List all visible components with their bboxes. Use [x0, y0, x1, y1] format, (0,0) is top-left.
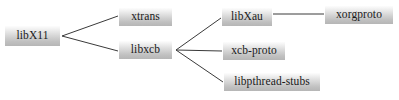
dependency-diagram: libX11 xtrans libxcb libXau xcb-proto li…	[0, 0, 399, 100]
node-libxau[interactable]: libXau	[222, 8, 272, 26]
node-xcb-proto[interactable]: xcb-proto	[223, 42, 285, 60]
edge-libxcb-libxau	[176, 18, 221, 50]
node-xorgproto[interactable]: xorgproto	[325, 6, 393, 24]
node-label-libxcb: libxcb	[131, 44, 160, 56]
node-label-libxau: libXau	[231, 11, 263, 23]
edge-libxcb-libpthread-stubs	[176, 50, 223, 82]
node-label-xcb-proto: xcb-proto	[231, 45, 277, 57]
node-label-xtrans: xtrans	[131, 11, 160, 23]
node-label-libpthread-stubs: libpthread-stubs	[234, 76, 310, 88]
edge-libx11-xtrans	[62, 16, 118, 36]
node-label-xorgproto: xorgproto	[336, 9, 382, 21]
node-label-libx11: libX11	[16, 30, 48, 42]
edge-libxcb-xcb-proto	[176, 50, 222, 51]
node-libxcb[interactable]: libxcb	[119, 41, 172, 59]
edge-libx11-libxcb	[62, 36, 118, 51]
node-xtrans[interactable]: xtrans	[119, 8, 172, 26]
node-libx11[interactable]: libX11	[5, 26, 60, 46]
node-libpthread-stubs[interactable]: libpthread-stubs	[224, 73, 320, 91]
